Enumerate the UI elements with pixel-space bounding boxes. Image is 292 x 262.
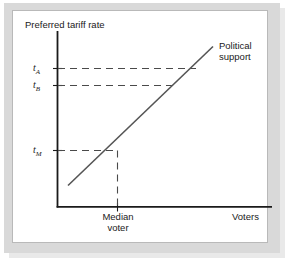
y-tick-label-tb-subscript: B xyxy=(36,85,40,93)
political-support-label-line2: support xyxy=(219,51,251,62)
y-tick-label-tm-subscript: M xyxy=(36,150,42,158)
median-voter-label-line1: Median xyxy=(102,211,133,222)
figure-page: Preferred tariff rate Politicalsupport V… xyxy=(0,0,292,262)
political-support-label-line1: Political xyxy=(219,40,252,51)
y-tick-label-tm: tM xyxy=(33,144,42,158)
median-voter-label-line2: voter xyxy=(107,222,128,233)
figure-shadow-right xyxy=(280,8,285,257)
y-tick-label-ta: tA xyxy=(33,62,40,76)
y-axis-label: Preferred tariff rate xyxy=(25,20,105,31)
x-axis-label: Voters xyxy=(232,212,259,223)
median-voter-label: Medianvoter xyxy=(98,212,138,233)
figure-shadow-bottom xyxy=(9,253,285,258)
y-tick-label-ta-subscript: A xyxy=(36,68,40,76)
political-support-label: Politicalsupport xyxy=(219,41,252,62)
y-tick-label-tb: tB xyxy=(33,79,40,93)
